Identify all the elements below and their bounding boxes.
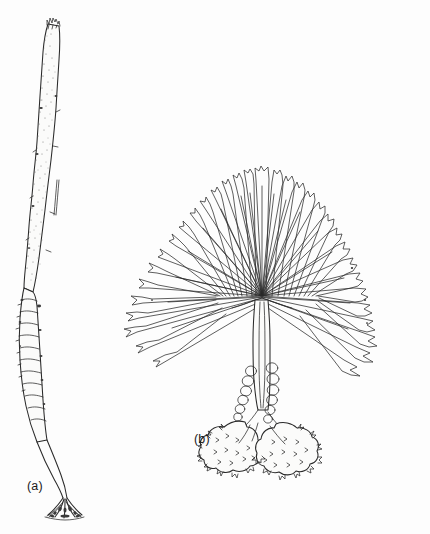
panel-label-b: (b)	[194, 432, 210, 446]
figure-drawing	[0, 0, 430, 534]
figure-container: (a) (b)	[0, 0, 430, 534]
panel-label-a: (a)	[27, 479, 43, 493]
